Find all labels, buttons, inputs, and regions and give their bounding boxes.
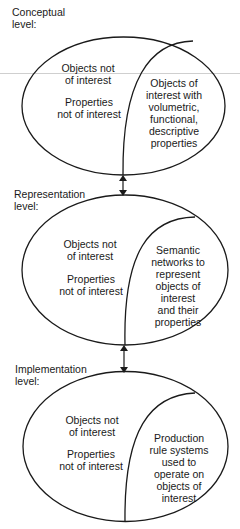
implementation-objects-not-of-interest: Objects not of interest xyxy=(52,414,132,438)
representation-level-title: Representation level: xyxy=(14,188,85,212)
conceptual-level-title: Conceptual level: xyxy=(12,6,65,30)
representation-objects-not-of-interest: Objects not of interest xyxy=(50,238,130,262)
implementation-production-rule-systems: Production rule systems used to operate … xyxy=(141,432,217,504)
representation-properties-not-of-interest: Properties not of interest xyxy=(46,273,136,297)
representation-semantic-networks: Semantic networks to represent objects o… xyxy=(142,244,214,328)
implementation-properties-not-of-interest: Properties not of interest xyxy=(46,448,136,472)
conceptual-properties-not-of-interest: Properties not of interest xyxy=(44,96,134,120)
conceptual-objects-of-interest: Objects of interest with volumetric, fun… xyxy=(136,77,212,149)
conceptual-objects-not-of-interest: Objects not of interest xyxy=(48,62,128,86)
implementation-level-title: Implementation level: xyxy=(15,363,87,387)
